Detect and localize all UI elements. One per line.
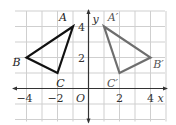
vertex-label: C [56,77,65,90]
vertex-label: A′ [107,11,119,24]
triangle-abc [27,27,74,74]
x-tick-label: 2 [116,92,123,105]
y-axis-label: y [91,13,99,26]
triangle-a-prime-b-prime-c-prime [104,27,151,74]
vertex-label: A [58,11,67,24]
x-tick-label: 4 [147,92,154,105]
vertex-label: B′ [152,58,164,71]
coordinate-plane-diagram: −4−22442xyOABCA′B′C′ [0,0,176,125]
y-tick-label: 2 [78,52,85,65]
x-axis-label: x [157,92,164,105]
x-tick-label: −2 [47,92,63,105]
y-tick-label: 4 [78,21,85,34]
x-tick-label: −4 [16,92,32,105]
origin-label: O [76,92,85,105]
vertex-label: B [11,56,20,69]
x-axis-arrow-left-icon [12,87,17,91]
y-axis-arrow-down-icon [87,119,91,124]
vertex-label: C′ [107,77,118,90]
grid-lines [15,11,166,122]
